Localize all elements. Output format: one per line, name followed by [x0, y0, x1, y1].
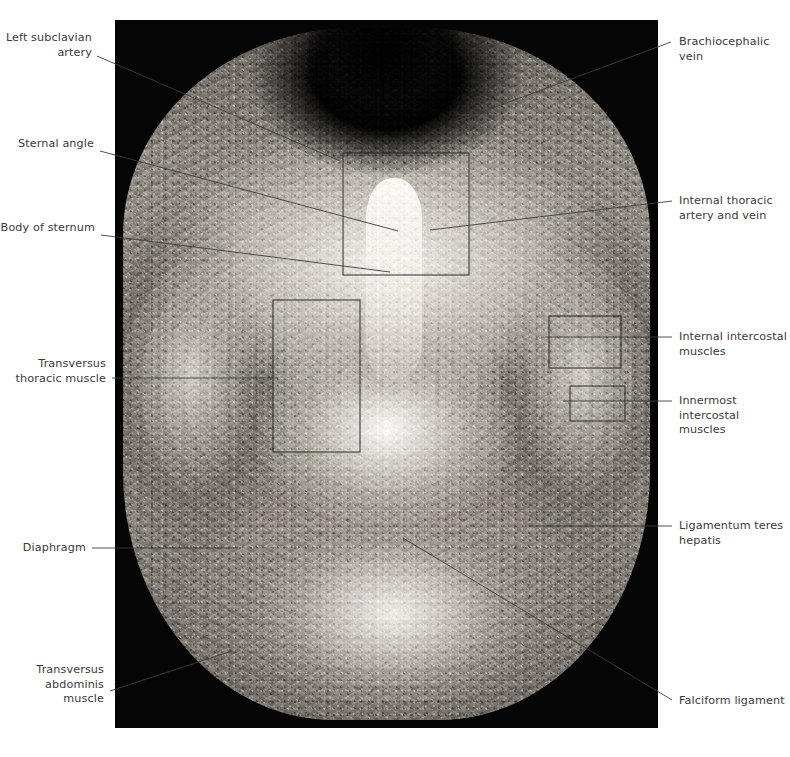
label-internal-thoracic-artery-and-vein: Internal thoracic artery and vein [679, 194, 787, 223]
leader-internal-thoracic-artery-and-vein [430, 201, 672, 230]
label-left-subclavian-artery: Left subclavian artery [0, 31, 92, 60]
leader-transversus-abdominis-muscle [110, 651, 232, 691]
label-diaphragm: Diaphragm [0, 541, 86, 556]
roi-box-internal-intercostal [549, 316, 621, 368]
label-body-of-sternum: Body of sternum [0, 221, 95, 236]
label-innermost-intercostal-muscles: Innermost intercostal muscles [679, 394, 771, 438]
roi-box-innermost-intercostal [570, 386, 625, 421]
anatomical-figure: Left subclavian artery Sternal angle Bod… [0, 0, 790, 757]
label-sternal-angle: Sternal angle [0, 137, 94, 152]
roi-box-transversus-thoracic [273, 300, 360, 452]
leader-body-of-sternum [101, 235, 390, 272]
annotation-overlay [0, 0, 790, 757]
label-falciform-ligament: Falciform ligament [679, 694, 789, 709]
leader-falciform-ligament [403, 538, 672, 700]
label-ligamentum-teres-hepatis: Ligamentum teres hepatis [679, 519, 789, 548]
leader-sternal-angle [100, 151, 398, 231]
label-transversus-abdominis-muscle: Transversus abdominis muscle [0, 663, 104, 707]
leader-left-subclavian-artery [97, 56, 340, 161]
label-transversus-thoracic-muscle: Transversus thoracic muscle [0, 357, 106, 386]
roi-box-internal-thoracic [343, 153, 469, 275]
leader-brachiocephalic-vein [455, 42, 671, 122]
label-brachiocephalic-vein: Brachiocephalic vein [679, 35, 789, 64]
label-internal-intercostal-muscles: Internal intercostal muscles [679, 330, 789, 359]
